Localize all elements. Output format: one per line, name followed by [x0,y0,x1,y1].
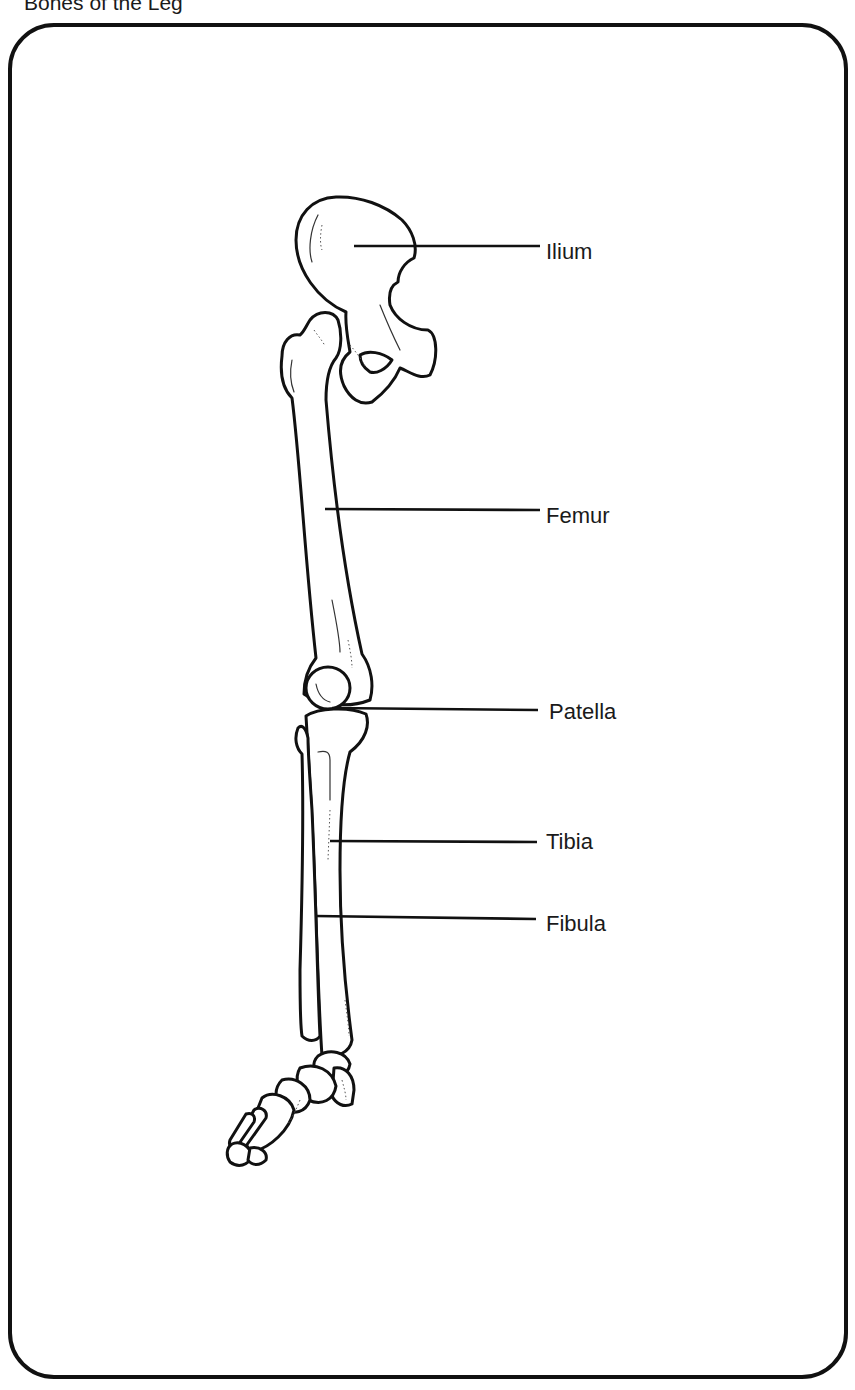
label-ilium: Ilium [546,239,592,265]
patella-leader-line [332,708,538,710]
foot-bones [227,1052,354,1166]
label-tibia: Tibia [546,829,593,855]
patella-bone [306,667,350,709]
fibula-leader-line [315,916,536,919]
label-femur: Femur [546,503,610,529]
femur-leader-line [325,509,540,510]
leg-skeleton-illustration [0,0,855,1390]
tibia-leader-line [330,841,537,842]
label-patella: Patella [549,699,616,725]
label-fibula: Fibula [546,911,606,937]
